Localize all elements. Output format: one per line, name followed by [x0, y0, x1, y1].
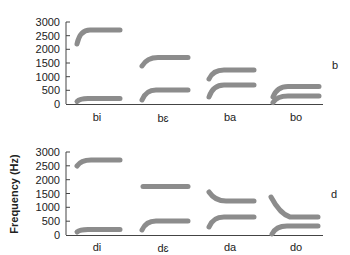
category-label: do: [290, 241, 302, 253]
y-axis-top: 3000 2500 2000 1500 1000 500 0: [36, 16, 70, 110]
formant-f1: [272, 226, 318, 234]
y-axis-title: Frequency (Hz): [8, 154, 20, 234]
y-tick-label: 1000: [36, 201, 60, 213]
syllable-beh: [142, 58, 188, 101]
formant-f1: [209, 85, 254, 97]
formant-f2: [77, 30, 120, 44]
formant-f1: [273, 96, 319, 103]
y-tick-label: 500: [42, 84, 60, 96]
category-label: bo: [290, 111, 302, 123]
y-tick-label: 0: [54, 229, 60, 241]
panel-b: 3000 2500 2000 1500 1000 500 0 b: [36, 16, 339, 124]
y-tick-label: 1500: [36, 57, 60, 69]
y-tick-label: 2000: [36, 174, 60, 186]
syllable-deh: [142, 187, 188, 231]
category-label: bi: [93, 111, 102, 123]
syllable-di: [77, 160, 120, 232]
y-tick-label: 3000: [36, 146, 60, 158]
syllable-da: [209, 192, 254, 227]
formant-f2: [209, 70, 254, 79]
formant-f2: [271, 197, 318, 217]
category-label: di: [93, 241, 102, 253]
category-label: dɛ: [157, 242, 168, 254]
y-tick-label: 500: [42, 215, 60, 227]
panel-label-b: b: [332, 59, 338, 71]
y-tick-label: 2500: [36, 160, 60, 172]
panel-d: 3000 2500 2000 1500 1000 500 0 d: [36, 146, 338, 254]
syllable-bi: [77, 30, 120, 102]
formant-f2: [209, 192, 254, 201]
formant-f1: [77, 230, 120, 233]
formant-f2: [142, 58, 188, 67]
category-label: bɛ: [157, 112, 168, 124]
formant-f2: [77, 160, 120, 166]
y-tick-label: 1000: [36, 71, 60, 83]
y-tick-label: 2500: [36, 30, 60, 42]
syllable-bo: [273, 87, 319, 103]
formant-f1: [77, 99, 120, 102]
y-axis-bottom: 3000 2500 2000 1500 1000 500 0: [36, 146, 70, 241]
category-label: da: [224, 241, 237, 253]
panel-label-d: d: [331, 188, 337, 200]
formant-f1: [142, 90, 188, 100]
category-label: ba: [224, 111, 237, 123]
spectrogram-figure: 3000 2500 2000 1500 1000 500 0 b: [0, 0, 350, 255]
syllable-ba: [209, 70, 254, 97]
formant-f1: [209, 217, 254, 227]
y-tick-label: 2000: [36, 43, 60, 55]
syllable-do: [271, 197, 318, 234]
y-tick-label: 1500: [36, 188, 60, 200]
formant-f1: [142, 221, 188, 230]
y-tick-label: 0: [54, 98, 60, 110]
y-tick-label: 3000: [36, 16, 60, 28]
